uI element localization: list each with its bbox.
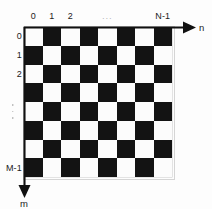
- m-axis-name: m: [20, 199, 28, 209]
- m-axis-arrow: [0, 0, 212, 209]
- checkerboard-diagram: 012N-1 012M-1 ··· n m: [0, 0, 212, 209]
- n-axis-name: n: [199, 23, 204, 33]
